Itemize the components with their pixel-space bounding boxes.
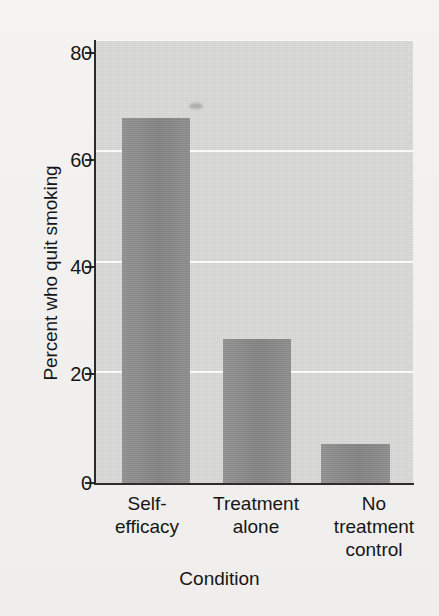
x-category-label-self-efficacy: Self- efficacy bbox=[92, 492, 202, 538]
y-tick-label-60: 60 bbox=[70, 150, 92, 170]
y-tick-label-80: 80 bbox=[70, 43, 92, 63]
x-category-label-line-2: efficacy bbox=[92, 515, 202, 538]
x-axis-line bbox=[94, 483, 414, 485]
x-axis-title: Condition bbox=[0, 568, 439, 590]
plot-area bbox=[96, 40, 413, 483]
x-category-label-line-1: No bbox=[313, 492, 435, 515]
y-axis-title: Percent who quit smoking bbox=[40, 108, 62, 438]
x-category-label-line-2: treatment bbox=[313, 515, 435, 538]
x-category-label-line-2: alone bbox=[195, 515, 317, 538]
gridline-80 bbox=[96, 40, 413, 41]
x-category-label-treatment-alone: Treatment alone bbox=[195, 492, 317, 538]
x-category-label-line-1: Treatment bbox=[195, 492, 317, 515]
y-tick-label-20: 20 bbox=[70, 364, 92, 384]
y-tick-label-40: 40 bbox=[70, 257, 92, 277]
bar-self-efficacy bbox=[122, 118, 190, 483]
y-tick-label-0: 0 bbox=[81, 473, 92, 493]
bar-treatment-alone bbox=[223, 339, 291, 483]
x-category-label-line-3: control bbox=[313, 538, 435, 561]
scan-smudge-artifact bbox=[189, 103, 203, 109]
bar-no-treatment-control bbox=[321, 444, 390, 483]
x-category-label-line-1: Self- bbox=[92, 492, 202, 515]
x-category-label-no-treatment-control: No treatment control bbox=[313, 492, 435, 561]
bar-chart-figure: Percent who quit smoking 80 60 40 20 0 S… bbox=[0, 0, 439, 616]
